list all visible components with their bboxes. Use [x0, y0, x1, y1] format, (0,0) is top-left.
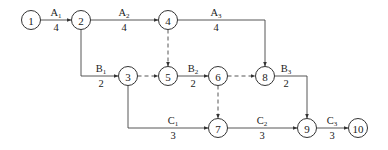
event-node-1: 1 — [22, 11, 41, 30]
activity-duration: 2 — [283, 78, 288, 89]
activity-arrow-b3 — [275, 76, 308, 119]
activity-label: B3 — [281, 63, 292, 76]
event-node-5: 5 — [159, 67, 178, 86]
event-node-8: 8 — [256, 67, 275, 86]
activity-duration: 4 — [121, 22, 127, 33]
event-node-9: 9 — [298, 119, 317, 138]
event-node-3: 3 — [119, 67, 138, 86]
event-node-6: 6 — [209, 67, 228, 86]
node-label: 9 — [304, 123, 310, 135]
activity-arrow-a3 — [178, 20, 266, 67]
node-label: 6 — [215, 71, 221, 83]
node-label: 5 — [165, 71, 171, 83]
activity-duration: 2 — [190, 78, 195, 89]
node-label: 1 — [28, 15, 34, 27]
activity-duration: 2 — [98, 78, 103, 89]
node-label: 3 — [125, 71, 131, 83]
activity-label: A1 — [50, 7, 62, 20]
network-diagram: A14A24A34B12B22B32C13C23C33 12345678910 — [0, 0, 388, 150]
node-label: 4 — [165, 15, 171, 27]
node-label: 2 — [78, 15, 84, 27]
activity-label: A3 — [210, 7, 222, 20]
activity-label: C2 — [257, 115, 268, 128]
activity-duration: 4 — [53, 22, 59, 33]
event-node-4: 4 — [159, 11, 178, 30]
activity-duration: 3 — [329, 130, 334, 141]
activity-label: C1 — [168, 115, 179, 128]
event-node-2: 2 — [72, 11, 91, 30]
activity-label: B1 — [96, 63, 107, 76]
activity-label: C3 — [327, 115, 338, 128]
activity-duration: 3 — [259, 130, 264, 141]
event-node-7: 7 — [209, 119, 228, 138]
node-label: 8 — [262, 71, 268, 83]
activity-duration: 3 — [170, 130, 175, 141]
event-node-10: 10 — [349, 119, 368, 138]
activity-label: B2 — [188, 63, 199, 76]
activity-duration: 4 — [213, 22, 219, 33]
activity-label: A2 — [118, 7, 130, 20]
node-label: 10 — [353, 123, 365, 135]
node-label: 7 — [215, 123, 221, 135]
